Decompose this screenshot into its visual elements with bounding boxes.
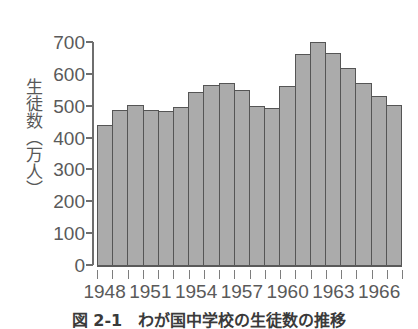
bar — [143, 110, 159, 265]
bar — [234, 90, 250, 265]
x-axis-tick-mark — [372, 270, 373, 279]
x-axis-tick-label: 1960 — [266, 281, 308, 303]
x-axis-tick-labels: 1948195119541957196019631966 — [97, 281, 402, 305]
x-axis-tick-label: 1948 — [83, 281, 125, 303]
bar — [97, 125, 113, 265]
x-axis-line — [97, 265, 402, 267]
x-axis-tick-mark — [173, 270, 174, 279]
y-axis-tick-labels: 0100200300400500600700 — [39, 0, 85, 329]
x-axis-tick-mark — [219, 270, 220, 279]
y-axis-tick-mark — [86, 105, 93, 107]
figure-caption: 図 2-1 わが国中学校の生徒数の推移 — [0, 312, 418, 329]
x-axis-tick-label: 1954 — [175, 281, 217, 303]
x-axis-tick-label: 1966 — [358, 281, 400, 303]
bar — [203, 85, 219, 265]
y-axis-tick-mark — [86, 41, 93, 43]
y-axis-tick-mark — [86, 200, 93, 202]
bar — [355, 83, 371, 265]
y-axis-tick-label: 200 — [39, 192, 85, 211]
x-axis-tick-mark — [387, 270, 388, 279]
x-axis-tick-mark — [250, 270, 251, 279]
x-axis-tick-mark — [143, 270, 144, 279]
bar — [386, 105, 402, 265]
x-axis-tick-label: 1951 — [129, 281, 171, 303]
bar — [112, 110, 128, 265]
bar — [188, 92, 204, 265]
x-axis-tick-mark — [112, 270, 113, 279]
y-axis-tick-label: 300 — [39, 160, 85, 179]
y-axis-tick-label: 400 — [39, 129, 85, 148]
bar — [219, 83, 235, 265]
bar — [264, 108, 280, 265]
x-axis-tick-label: 1963 — [312, 281, 354, 303]
x-axis-tick-mark — [204, 270, 205, 279]
y-axis-tick-mark — [86, 73, 93, 75]
x-axis-tick-label: 1957 — [221, 281, 263, 303]
x-axis-tick-mark — [128, 270, 129, 279]
bar — [310, 42, 326, 265]
y-axis-tick-mark — [86, 232, 93, 234]
y-axis-tick-mark — [86, 264, 93, 266]
y-axis-tick-label: 600 — [39, 65, 85, 84]
y-axis-tick-label: 700 — [39, 33, 85, 52]
y-axis-tick-label: 100 — [39, 224, 85, 243]
x-axis-tick-mark — [402, 270, 403, 279]
y-axis-tick-label: 0 — [39, 256, 85, 275]
bar — [173, 107, 189, 265]
x-axis-tick-mark — [341, 270, 342, 279]
y-axis-tick-label: 500 — [39, 97, 85, 116]
x-axis-tick-mark — [326, 270, 327, 279]
plot-area: 1948195119541957196019631966 — [97, 42, 402, 265]
x-axis-tick-mark — [356, 270, 357, 279]
bar — [371, 96, 387, 265]
bar-series — [97, 42, 402, 265]
bar — [325, 53, 341, 265]
x-axis-tick-marks — [97, 270, 402, 279]
bar — [295, 54, 311, 265]
figure-container: 生徒数（万人） 0100200300400500600700 194819511… — [0, 0, 418, 329]
figure-caption-text: 図 2-1 わが国中学校の生徒数の推移 — [72, 312, 346, 329]
bar — [127, 105, 143, 265]
bar — [249, 106, 265, 265]
x-axis-tick-mark — [234, 270, 235, 279]
x-axis-tick-mark — [311, 270, 312, 279]
y-axis-tick-mark — [86, 137, 93, 139]
x-axis-tick-mark — [280, 270, 281, 279]
x-axis-tick-mark — [265, 270, 266, 279]
x-axis-tick-mark — [97, 270, 98, 279]
y-axis-tick-mark — [86, 168, 93, 170]
bar — [340, 68, 356, 266]
x-axis-tick-mark — [295, 270, 296, 279]
bar — [279, 86, 295, 265]
x-axis-tick-mark — [158, 270, 159, 279]
x-axis-tick-mark — [189, 270, 190, 279]
bar — [158, 111, 174, 265]
